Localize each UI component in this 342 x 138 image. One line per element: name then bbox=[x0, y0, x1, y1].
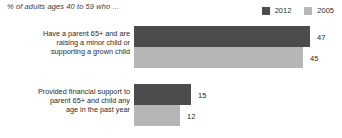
bar-value-label: 12 bbox=[187, 111, 195, 120]
category-label: Provided financial support toparent 65+ … bbox=[12, 87, 130, 114]
chart-subtitle: % of adults ages 40 to 59 who ... bbox=[7, 2, 119, 11]
plot-area: Have a parent 65+ and areraising a minor… bbox=[0, 26, 342, 138]
legend-swatch-2005 bbox=[304, 7, 312, 15]
bar-2005[interactable] bbox=[134, 47, 303, 68]
legend-entry-2005[interactable]: 2005 bbox=[304, 7, 334, 15]
chart-legend: 2012 2005 bbox=[262, 7, 334, 15]
bar-2012[interactable] bbox=[134, 26, 310, 47]
category-label: Have a parent 65+ and areraising a minor… bbox=[12, 29, 130, 56]
bar-2012[interactable] bbox=[134, 84, 191, 105]
bar-value-label: 47 bbox=[317, 32, 325, 41]
bar-2005[interactable] bbox=[134, 105, 180, 126]
legend-entry-2012[interactable]: 2012 bbox=[262, 7, 292, 15]
bar-value-label: 45 bbox=[310, 53, 318, 62]
bar-value-label: 15 bbox=[198, 90, 206, 99]
bar-chart: % of adults ages 40 to 59 who ... 2012 2… bbox=[0, 0, 342, 138]
legend-label-2012: 2012 bbox=[275, 7, 292, 15]
legend-swatch-2012 bbox=[262, 7, 270, 15]
legend-label-2005: 2005 bbox=[317, 7, 334, 15]
